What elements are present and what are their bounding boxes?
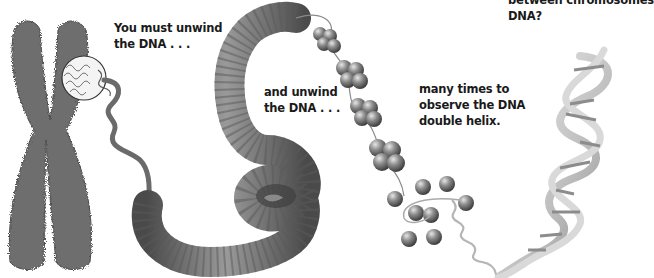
caption-step3-line1: many times to bbox=[419, 81, 525, 97]
caption-step2-line2: the DNA . . . bbox=[264, 100, 340, 116]
caption-step3-line3: double helix. bbox=[419, 113, 525, 129]
caption-step3: many times to observe the DNA double hel… bbox=[419, 81, 525, 129]
coiled-fiber bbox=[147, 17, 306, 262]
caption-top-right-line1: between chromosomes bbox=[508, 0, 654, 8]
caption-step1: You must unwind the DNA . . . bbox=[114, 20, 222, 52]
thin-fiber bbox=[104, 80, 149, 205]
caption-step2-line1: and unwind bbox=[264, 84, 340, 100]
caption-step3-line2: observe the DNA bbox=[419, 97, 525, 113]
caption-step1-line2: the DNA . . . bbox=[114, 36, 222, 52]
thin-helix bbox=[452, 200, 516, 278]
caption-top-right-line2: DNA? bbox=[508, 8, 654, 24]
caption-top-right: between chromosomes DNA? bbox=[508, 0, 654, 24]
caption-step2: and unwind the DNA . . . bbox=[264, 84, 340, 116]
caption-step1-line1: You must unwind bbox=[114, 20, 222, 36]
